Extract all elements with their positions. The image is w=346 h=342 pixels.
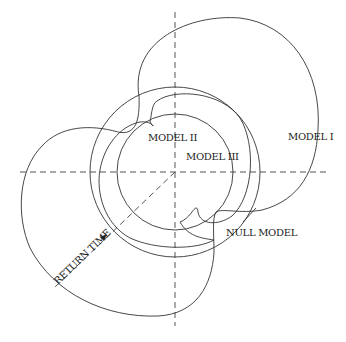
- label-model-2: MODEL II: [148, 132, 197, 143]
- label-return-time: RETURN TIME: [52, 227, 113, 286]
- polar-model-diagram: MODEL I MODEL II MODEL III NULL MODEL RE…: [0, 0, 346, 342]
- label-model-1: MODEL I: [288, 131, 334, 142]
- label-model-3: MODEL III: [186, 151, 239, 162]
- label-null-model: NULL MODEL: [226, 227, 298, 238]
- null-model-leader: [243, 208, 256, 222]
